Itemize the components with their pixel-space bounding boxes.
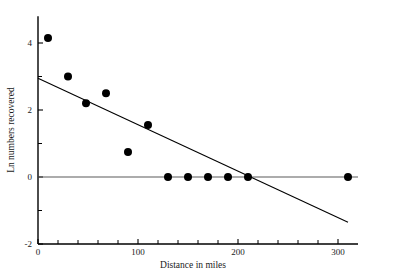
data-point (44, 34, 52, 42)
data-point (224, 173, 232, 181)
y-tick-label: 4 (28, 38, 33, 48)
data-point (184, 173, 192, 181)
y-tick-label: 0 (28, 172, 33, 182)
data-point (164, 173, 172, 181)
data-point (244, 173, 252, 181)
x-tick-label: 100 (131, 247, 145, 257)
y-tick-label: -2 (25, 239, 33, 249)
data-point (344, 173, 352, 181)
x-tick-label: 0 (36, 247, 41, 257)
data-point (204, 173, 212, 181)
data-point (124, 148, 132, 156)
data-point (144, 121, 152, 129)
scatter-plot-figure: -20240100200300Distance in milesLn numbe… (0, 0, 393, 275)
y-axis-title: Ln numbers recovered (6, 87, 16, 173)
y-tick-label: 2 (28, 105, 33, 115)
data-point (64, 73, 72, 81)
x-tick-label: 300 (331, 247, 345, 257)
data-point (102, 89, 110, 97)
plot-canvas: -20240100200300Distance in milesLn numbe… (0, 0, 393, 275)
x-axis-title: Distance in miles (160, 260, 226, 270)
x-tick-label: 200 (231, 247, 245, 257)
data-point (82, 99, 90, 107)
